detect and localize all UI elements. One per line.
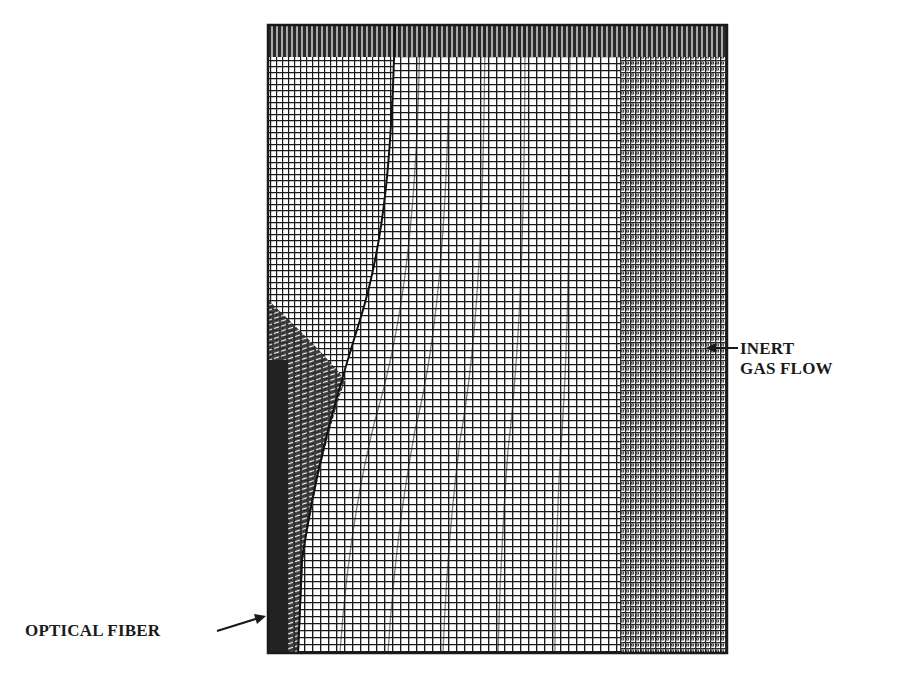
- optical-fiber-label: OPTICAL FIBER: [25, 621, 160, 641]
- optical-fiber-arrow-icon: [217, 614, 266, 631]
- inert-gas-flow-label: INERT GAS FLOW: [740, 339, 833, 379]
- inert-gas-flow-line2: GAS FLOW: [740, 359, 833, 379]
- mesh-grid: [268, 25, 727, 653]
- inert-gas-flow-line1: INERT: [740, 339, 833, 359]
